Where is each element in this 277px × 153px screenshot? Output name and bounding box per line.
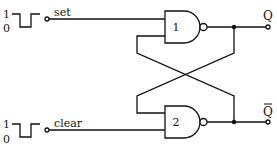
clear-pulse-high-label: 1	[3, 118, 10, 131]
feedback-q-to-gate-2	[137, 27, 234, 113]
set-label: set	[54, 6, 71, 19]
gate-2-label: 2	[173, 116, 180, 129]
q-junction-dot	[232, 25, 236, 29]
q-bar-junction-dot	[232, 120, 236, 124]
clear-label: clear	[54, 117, 83, 130]
clear-pulse-low-label: 0	[3, 133, 10, 146]
clear-pulse-waveform	[12, 124, 40, 137]
nand-gate-2	[165, 106, 200, 138]
set-pulse-high-label: 1	[3, 8, 10, 21]
set-pulse-waveform	[12, 14, 40, 27]
gate-1-bubble	[200, 24, 207, 31]
gate-2-bubble	[200, 119, 207, 126]
feedback-q-bar-to-gate-1	[137, 36, 234, 122]
q-bar-output-pin	[266, 120, 270, 124]
q-bar-output-label: Q	[263, 105, 273, 119]
nand-gate-1	[165, 11, 200, 43]
q-output-pin	[266, 25, 270, 29]
set-pulse-low-label: 0	[3, 22, 10, 35]
q-output-label: Q	[263, 9, 273, 23]
sr-latch-diagram: 1 0 set 1 0 clear 1 2 Q Q	[0, 0, 277, 153]
gate-1-label: 1	[173, 21, 180, 34]
set-input-pin	[45, 17, 49, 21]
clear-input-pin	[45, 128, 49, 132]
